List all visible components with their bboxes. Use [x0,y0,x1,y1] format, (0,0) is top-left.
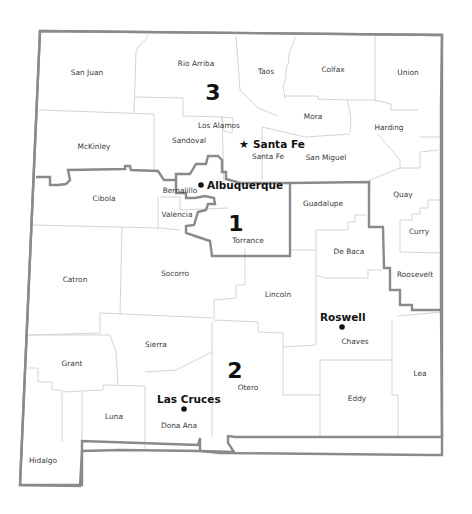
county-label-santa-fe: Santa Fe [252,152,285,161]
district-3-label: 3 [205,80,220,105]
county-label-dona-ana: Dona Ana [161,421,197,430]
county-label-grant: Grant [62,359,83,368]
county-label-mora: Mora [304,112,322,121]
county-label-eddy: Eddy [348,394,367,403]
county-label-socorro: Socorro [161,269,190,278]
county-label-union: Union [397,68,419,77]
county-label-curry: Curry [409,227,430,236]
county-label-san-miguel: San Miguel [306,153,347,162]
city-dot-icon [339,324,345,330]
county-label-mckinley: McKinley [78,142,112,151]
city-label-roswell: Roswell [320,311,366,323]
district-2-label: 2 [227,358,242,383]
county-label-roosevelt: Roosevelt [397,270,433,279]
county-label-sierra: Sierra [145,340,167,349]
county-label-cibola: Cibola [92,194,115,203]
city-label-albuquerque: Albuquerque [207,179,283,191]
state-outline [20,31,442,485]
county-label-rio-arriba: Rio Arriba [178,59,214,68]
district-1-label: 1 [228,211,243,236]
county-label-chaves: Chaves [341,337,368,346]
county-label-san-juan: San Juan [71,68,104,77]
city-dot-icon [181,406,187,412]
city-label-las-cruces: Las Cruces [157,393,221,405]
county-label-de-baca: De Baca [334,247,365,256]
county-label-guadalupe: Guadalupe [303,199,344,208]
star-icon: ★ [239,138,249,151]
county-label-valencia: Valencia [162,210,193,219]
county-label-luna: Luna [105,412,123,421]
county-label-colfax: Colfax [321,65,345,74]
county-label-harding: Harding [374,123,403,132]
county-label-otero: Otero [238,383,259,392]
county-label-taos: Taos [257,67,274,76]
county-label-bernalillo: Bernalillo [163,186,198,195]
county-label-torrance: Torrance [231,236,264,245]
county-label-los-alamos: Los Alamos [198,121,240,130]
county-label-catron: Catron [63,275,88,284]
state-border [20,31,442,486]
county-label-hidalgo: Hidalgo [29,456,58,465]
county-label-lea: Lea [413,369,426,378]
city-label-santa-fe: Santa Fe [253,138,305,150]
new-mexico-district-map: 1 2 3 San Juan Rio Arriba Taos Colfax Un… [0,0,472,514]
city-dot-icon [198,182,204,188]
county-label-quay: Quay [393,190,413,199]
county-label-sandoval: Sandoval [172,136,206,145]
county-label-lincoln: Lincoln [265,290,291,299]
county-labels: San Juan Rio Arriba Taos Colfax Union Lo… [29,59,433,465]
